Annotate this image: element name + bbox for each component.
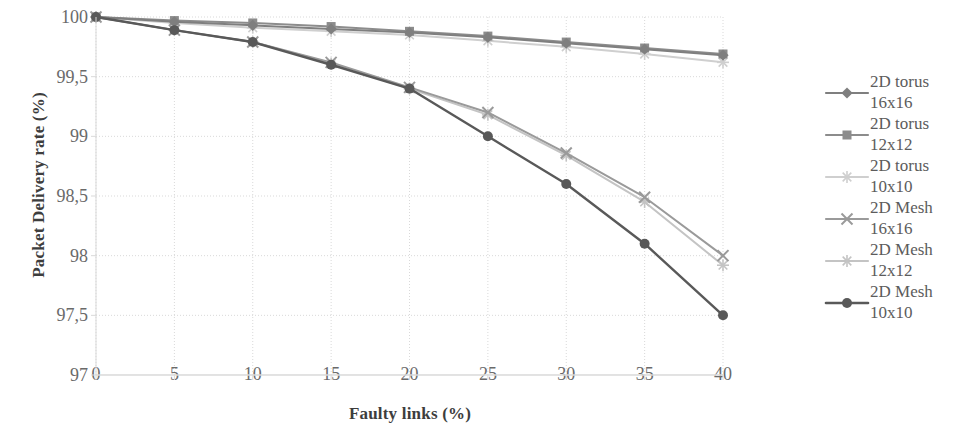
legend-label: 2D Mesh12x12 (870, 239, 962, 281)
gridlines (91, 17, 723, 380)
legend-label-line1: 2D torus (870, 71, 962, 92)
legend-marker-cross-icon (824, 208, 870, 230)
series-2d-mesh-10x10 (91, 12, 728, 320)
legend-label: 2D torus12x12 (870, 113, 962, 155)
data-point-circle (169, 25, 179, 35)
legend-label: 2D Mesh16x16 (870, 197, 962, 239)
data-point-circle (405, 84, 415, 94)
legend-label: 2D torus16x16 (870, 71, 962, 113)
legend-label-line2: 16x16 (870, 92, 962, 113)
data-point-circle (561, 179, 571, 189)
data-point-circle (326, 60, 336, 70)
legend-label-line1: 2D torus (870, 113, 962, 134)
chart-container: Packet Delivery rate (%) 10099,59998,598… (0, 0, 962, 434)
data-point-circle (718, 310, 728, 320)
data-point-circle (842, 298, 852, 308)
legend-label: 2D Mesh10x10 (870, 281, 962, 323)
data-point-diamond (841, 87, 852, 98)
legend-label-line2: 16x16 (870, 218, 962, 239)
legend-marker-diamond-icon (824, 82, 870, 104)
legend-label-line2: 10x10 (870, 176, 962, 197)
legend-marker-star-icon (824, 166, 870, 188)
legend-marker-circle-icon (824, 292, 870, 314)
legend-label-line2: 12x12 (870, 260, 962, 281)
legend-label-line1: 2D Mesh (870, 239, 962, 260)
legend-label-line2: 10x10 (870, 302, 962, 323)
data-point-circle (640, 239, 650, 249)
data-point-asterisk (841, 255, 853, 267)
legend-label-line2: 12x12 (870, 134, 962, 155)
data-point-circle (483, 131, 493, 141)
legend-label-line1: 2D Mesh (870, 197, 962, 218)
legend-marker-square-icon (824, 124, 870, 146)
legend-marker-asterisk-icon (824, 250, 870, 272)
data-point-square (843, 131, 852, 140)
legend-label-line1: 2D torus (870, 155, 962, 176)
data-point-star (841, 171, 853, 183)
plot-area (0, 0, 962, 434)
legend-label: 2D torus10x10 (870, 155, 962, 197)
data-point-circle (248, 37, 258, 47)
legend-label-line1: 2D Mesh (870, 281, 962, 302)
